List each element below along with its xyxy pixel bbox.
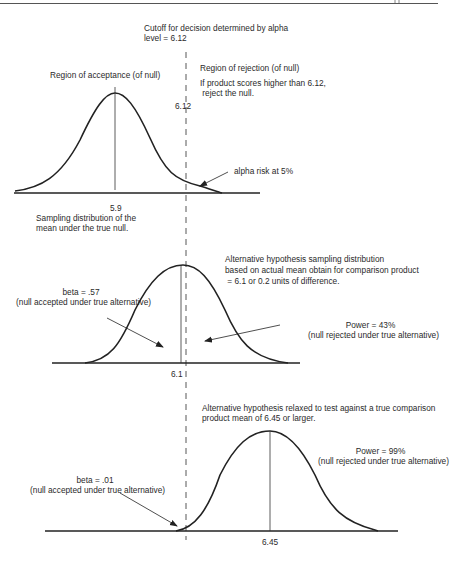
alt1-beta-line2: (null accepted under true alternative) xyxy=(16,297,146,307)
alt1-power-line2: (null rejected under true alternative) xyxy=(308,330,433,340)
alt1-desc-line2: based on actual mean obtain for comparis… xyxy=(225,265,419,275)
alt1-power-line1: Power = 43% xyxy=(308,320,433,330)
power-arrow-alt1 xyxy=(205,325,280,341)
region-acceptance-label: Region of acceptance (of null) xyxy=(50,70,160,80)
null-caption-line2: mean under the true null. xyxy=(36,223,136,233)
cutoff-title: Cutoff for decision determined by alpha … xyxy=(144,23,288,43)
alpha-arrow xyxy=(200,172,228,186)
alt2-power-line2: (null rejected under true alternative) xyxy=(318,456,443,466)
alpha-risk-label: alpha risk at 5% xyxy=(234,166,293,176)
null-distribution xyxy=(14,87,260,193)
alt1-beta-line1: beta = .57 xyxy=(16,287,146,297)
alt1-description: Alternative hypothesis sampling distribu… xyxy=(225,254,419,286)
cutoff-value-label: 6.12 xyxy=(175,101,191,111)
null-caption-line1: Sampling distribution of the xyxy=(36,213,136,223)
cutoff-line1: Cutoff for decision determined by alpha xyxy=(144,23,288,33)
alt2-power-label: Power = 99% (null rejected under true al… xyxy=(318,446,443,466)
alt2-beta-line1: beta = .01 xyxy=(30,475,160,485)
null-mean-label: 5.9 xyxy=(110,203,122,213)
region-rejection-label: Region of rejection (of null) xyxy=(200,63,299,73)
rejection-rule-line1: If product scores higher than 6.12, xyxy=(200,78,326,88)
alt1-beta-label: beta = .57 (null accepted under true alt… xyxy=(16,287,146,307)
alt2-description: Alternative hypothesis relaxed to test a… xyxy=(202,403,435,423)
alt2-desc-line1: Alternative hypothesis relaxed to test a… xyxy=(202,403,435,413)
rejection-rule-line2: reject the null. xyxy=(200,88,326,98)
alt1-desc-line1: Alternative hypothesis sampling distribu… xyxy=(225,254,419,264)
beta-arrow-alt2 xyxy=(120,493,177,526)
null-caption: Sampling distribution of the mean under … xyxy=(36,213,136,233)
beta-arrow-alt1 xyxy=(107,318,163,347)
alt2-mean-label: 6.45 xyxy=(262,537,278,547)
alt2-desc-line2: product mean of 6.45 or larger. xyxy=(202,413,435,423)
rejection-rule: If product scores higher than 6.12, reje… xyxy=(200,78,326,98)
alt2-beta-line2: (null accepted under true alternative) xyxy=(30,485,160,495)
alt2-beta-label: beta = .01 (null accepted under true alt… xyxy=(30,475,160,495)
alt1-power-label: Power = 43% (null rejected under true al… xyxy=(308,320,433,340)
alt1-desc-line3: = 6.1 or 0.2 units of difference. xyxy=(225,276,419,286)
cutoff-line2: level = 6.12 xyxy=(144,33,288,43)
alt1-mean-label: 6.1 xyxy=(171,369,183,379)
alt2-power-line1: Power = 99% xyxy=(318,446,443,456)
